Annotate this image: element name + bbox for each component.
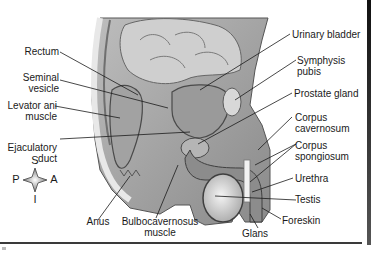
- compass-rose-icon: [23, 168, 47, 192]
- label-urinary-bladder: Urinary bladder: [292, 29, 360, 40]
- compass-posterior: P: [10, 174, 22, 185]
- label-glans: Glans: [237, 228, 273, 239]
- label-corpus-spongiosum: Corpus spongiosum: [295, 140, 349, 162]
- compass-inferior: I: [29, 194, 41, 205]
- compass-anterior: A: [48, 174, 60, 185]
- label-corpus-cavernosum: Corpus cavernosum: [295, 112, 349, 134]
- corner-mark: [2, 247, 6, 250]
- bottom-rule: [0, 242, 362, 244]
- label-levator-ani-muscle: Levator ani muscle: [0, 100, 57, 122]
- label-prostate-gland: Prostate gland: [294, 88, 359, 99]
- label-bulbocavernosus-muscle: Bulbocavernosus muscle: [120, 216, 200, 238]
- label-rectum: Rectum: [10, 46, 59, 57]
- label-urethra: Urethra: [295, 173, 328, 184]
- label-foreskin: Foreskin: [282, 215, 320, 226]
- compass-superior: S: [29, 155, 41, 166]
- label-anus: Anus: [80, 216, 116, 227]
- label-seminal-vesicle: Seminal vesicle: [10, 72, 59, 94]
- testis-shape: [203, 174, 243, 222]
- label-testis: Testis: [295, 194, 321, 205]
- label-symphysis-pubis: Symphysis pubis: [297, 55, 345, 77]
- page-edge-shadow: [367, 0, 371, 245]
